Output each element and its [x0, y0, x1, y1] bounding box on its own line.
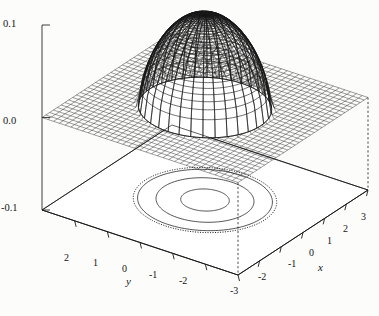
x-tick-label: -1 [288, 259, 296, 269]
x-tick-label: -2 [258, 272, 266, 282]
z-tick-label: -0.1 [1, 203, 18, 214]
z-tick-label: 0.0 [3, 116, 16, 127]
x-tick-label: 0 [309, 248, 314, 258]
x-tick-label: 1 [327, 236, 332, 246]
surface-plot-figure: 0.1 0.0 -0.1 2 1 0 -1 -2 -3 y -2 -1 0 1 … [0, 0, 379, 316]
z-tick-label: 0.1 [3, 19, 16, 30]
y-axis-title: y [126, 276, 131, 287]
x-axis-title: x [318, 262, 323, 273]
y-tick-label: 0 [122, 264, 127, 274]
y-tick-label: -3 [230, 286, 238, 296]
y-tick-label: 2 [64, 253, 69, 263]
y-tick-label: -1 [149, 270, 157, 280]
y-tick-label: -2 [179, 276, 187, 286]
y-tick-label: 1 [93, 258, 98, 268]
x-tick-label: 2 [343, 224, 348, 234]
x-tick-label: 3 [361, 212, 366, 222]
